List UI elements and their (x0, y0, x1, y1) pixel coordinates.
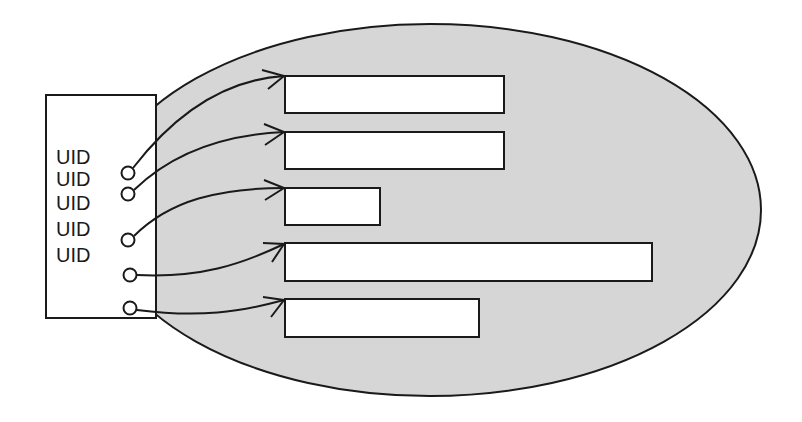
uid-label-5: UID (56, 244, 90, 266)
uid-label-1: UID (56, 146, 90, 168)
port-circle-icon (122, 188, 135, 201)
uid-label-2: UID (56, 168, 90, 190)
port-circle-icon (124, 302, 137, 315)
port-circle-icon (124, 269, 137, 282)
diagram-canvas: UID UID UID UID UID (0, 0, 802, 422)
uid-label-3: UID (56, 192, 90, 214)
target-record-3 (285, 188, 380, 225)
target-record-1 (285, 76, 504, 113)
target-record-4 (285, 243, 652, 281)
uid-label-4: UID (56, 218, 90, 240)
target-record-5 (285, 299, 479, 337)
port-circle-icon (122, 167, 135, 180)
target-record-2 (285, 132, 504, 169)
port-circle-icon (122, 234, 135, 247)
